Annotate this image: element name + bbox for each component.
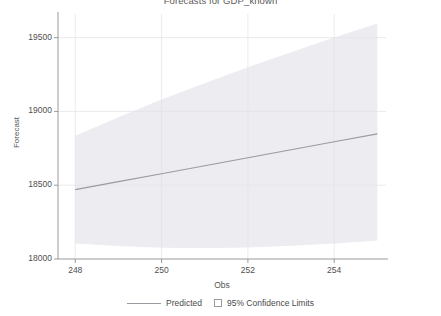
y-tick-label: 19000: [10, 106, 52, 115]
legend-item[interactable]: Predicted: [127, 298, 202, 308]
chart-legend: Predicted95% Confidence Limits: [0, 298, 441, 308]
y-tick-label: 18000: [10, 254, 52, 263]
x-axis-label: Obs: [58, 280, 386, 290]
y-tick-label: 18500: [10, 180, 52, 189]
x-tick-label: 248: [55, 265, 95, 275]
legend-square-swatch: [214, 299, 222, 307]
x-tick-label: 254: [314, 265, 354, 275]
y-tick-label: 19500: [10, 33, 52, 42]
legend-label: 95% Confidence Limits: [227, 298, 314, 308]
forecast-chart: Forecasts for GDP_known Forecast Obs 180…: [0, 0, 441, 316]
legend-label: Predicted: [166, 298, 202, 308]
x-tick-label: 252: [228, 265, 268, 275]
x-tick-label: 250: [142, 265, 182, 275]
legend-item[interactable]: 95% Confidence Limits: [214, 298, 314, 308]
legend-line-swatch: [127, 303, 161, 304]
